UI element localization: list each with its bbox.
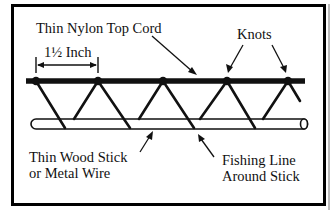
knot xyxy=(223,77,232,86)
stick-label-line2: or Metal Wire xyxy=(29,165,127,181)
fishing-line-label-line2: Around Stick xyxy=(222,168,300,184)
stick-label: Thin Wood Stick or Metal Wire xyxy=(29,149,127,181)
knots-label: Knots xyxy=(237,26,272,42)
diagram-canvas: Thin Nylon Top Cord Knots 1½ Inch Thin W… xyxy=(0,0,336,216)
knot xyxy=(159,77,168,86)
fishing-line-label: Fishing Line Around Stick xyxy=(222,152,300,184)
knot xyxy=(32,77,41,86)
top-cord-arrow xyxy=(152,36,197,75)
fishing-line-label-line1: Fishing Line xyxy=(222,152,300,168)
top-cord-label: Thin Nylon Top Cord xyxy=(36,20,162,36)
stick-arrow xyxy=(140,131,153,152)
stick xyxy=(31,119,308,129)
stick-label-line1: Thin Wood Stick xyxy=(29,149,127,165)
spacing-label: 1½ Inch xyxy=(44,44,92,60)
knot xyxy=(284,77,293,86)
knot xyxy=(94,77,103,86)
fishing-line-arrow xyxy=(198,134,214,157)
knots-arrows xyxy=(226,45,287,73)
